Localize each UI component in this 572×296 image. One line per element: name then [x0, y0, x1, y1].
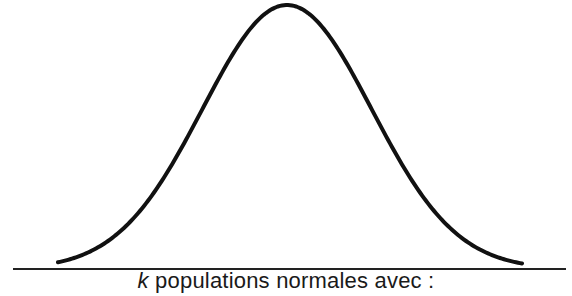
bell-curve — [58, 5, 522, 263]
caption: k populations normales avec : — [0, 268, 572, 294]
normal-curve-diagram — [0, 0, 572, 296]
caption-variable: k — [138, 268, 149, 293]
caption-text: populations normales avec : — [149, 268, 435, 293]
